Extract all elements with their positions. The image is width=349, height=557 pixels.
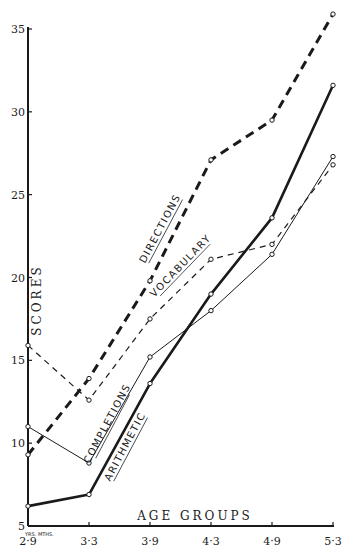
series-labels: DIRECTIONSVOCABULARYCOMPLETIONSARITHMETI… bbox=[81, 192, 213, 483]
data-point-marker bbox=[148, 317, 152, 321]
series-line bbox=[28, 85, 333, 506]
y-tick-label: 15 bbox=[11, 354, 25, 367]
axes bbox=[28, 27, 334, 526]
data-point-marker bbox=[270, 118, 274, 122]
x-tick-label: 3·3 bbox=[80, 535, 98, 548]
data-point-marker bbox=[26, 424, 30, 428]
x-tick-label: 4·3 bbox=[202, 535, 220, 548]
data-point-marker bbox=[87, 376, 91, 380]
line-chart: 5101520253035 2·93·33·94·34·95·3 DIRECTI… bbox=[0, 0, 349, 557]
data-point-marker bbox=[270, 242, 274, 246]
data-point-marker bbox=[26, 343, 30, 347]
data-point-marker bbox=[209, 292, 213, 296]
series-directions bbox=[26, 12, 335, 457]
data-point-marker bbox=[26, 453, 30, 457]
data-point-marker bbox=[148, 355, 152, 359]
data-point-marker bbox=[26, 504, 30, 508]
data-point-marker bbox=[270, 252, 274, 256]
data-point-marker bbox=[209, 158, 213, 162]
x-axis-note: YRS. MTHS. bbox=[24, 531, 54, 537]
x-tick-label: 3·9 bbox=[141, 535, 159, 548]
series-line bbox=[28, 157, 333, 463]
data-point-marker bbox=[87, 492, 91, 496]
x-axis-title: AGE GROUPS bbox=[136, 509, 253, 523]
x-tick-label: 5·3 bbox=[324, 535, 342, 548]
data-point-marker bbox=[331, 163, 335, 167]
y-axis-title: SCORES bbox=[30, 264, 44, 335]
series-line bbox=[28, 14, 333, 455]
data-point-marker bbox=[148, 381, 152, 385]
data-point-marker bbox=[87, 398, 91, 402]
y-tick-label: 25 bbox=[11, 189, 25, 202]
y-tick-label: 5 bbox=[18, 520, 25, 533]
series-arithmetic bbox=[26, 83, 335, 508]
data-point-marker bbox=[209, 257, 213, 261]
data-point-marker bbox=[331, 154, 335, 158]
y-tick-label: 10 bbox=[11, 437, 25, 450]
data-point-marker bbox=[331, 83, 335, 87]
data-point-marker bbox=[270, 216, 274, 220]
data-point-marker bbox=[148, 279, 152, 283]
y-tick-label: 30 bbox=[11, 106, 25, 119]
data-point-marker bbox=[209, 308, 213, 312]
x-tick-label: 4·9 bbox=[263, 535, 281, 548]
y-tick-label: 35 bbox=[11, 23, 25, 36]
data-point-marker bbox=[331, 12, 335, 16]
y-tick-label: 20 bbox=[11, 272, 25, 285]
